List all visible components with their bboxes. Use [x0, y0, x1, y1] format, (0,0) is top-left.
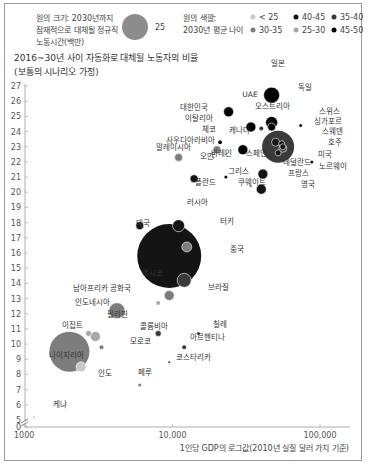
color-swatch-icon — [332, 15, 337, 20]
chart-title: 2016~30년 사이 자동화로 대체될 노동자의 비율 — [14, 53, 198, 63]
bubble-point — [224, 107, 234, 117]
bubble-point — [299, 124, 302, 127]
country-label: 영국 — [301, 179, 315, 189]
bubble-point — [155, 330, 161, 336]
country-label: 브라질 — [208, 283, 229, 292]
size-sample-circle — [122, 14, 148, 40]
x-tick-label: 100,000 — [303, 431, 336, 440]
y-tick-label: 11 — [11, 325, 21, 334]
country-label: 싱가포르 — [314, 116, 342, 126]
country-label: 필리핀 — [107, 309, 128, 319]
country-label: 멕시코 — [142, 268, 163, 278]
country-label: 페루 — [138, 367, 152, 377]
color-swatch-icon — [294, 15, 299, 20]
country-label: 프랑스 — [288, 169, 309, 178]
bubble-point — [177, 273, 191, 287]
country-label: 중국 — [230, 245, 244, 254]
country-label: 칠레 — [213, 320, 227, 329]
color-legend-item: 40-45 — [294, 13, 326, 22]
bubble-point — [138, 384, 141, 387]
bubble-point — [275, 150, 281, 156]
color-legend-label: 35-40 — [340, 13, 363, 22]
size-legend-line-2: 잠재적으로 대체될 정규직 — [36, 25, 118, 35]
country-label: 모로코 — [130, 337, 151, 346]
country-label: 호주 — [328, 138, 342, 147]
color-legend-label: 45-50 — [340, 26, 363, 35]
country-label: 말레이시아 — [156, 142, 191, 152]
country-label: 인도 — [98, 368, 112, 378]
y-tick-label: 13 — [11, 295, 21, 304]
bubble-point — [164, 291, 174, 301]
country-label: 스웨덴 — [322, 127, 343, 136]
color-legend-label: 25-30 — [302, 26, 325, 35]
y-tick-label: 17 — [11, 234, 21, 243]
y-tick-label: 23 — [11, 143, 21, 152]
bubble-point — [182, 242, 192, 252]
y-tick-label: 5 — [16, 416, 21, 425]
y-tick-label: 10 — [11, 340, 21, 349]
bubble-point — [76, 362, 86, 372]
y-tick-label: 16 — [11, 249, 21, 258]
color-legend-item: 35-40 — [332, 13, 364, 22]
bubble-point — [224, 176, 227, 179]
bubble-point — [272, 138, 280, 146]
y-tick-label: 14 — [11, 279, 21, 288]
color-swatch-icon — [251, 28, 256, 33]
color-legend-label: 40-45 — [302, 13, 325, 22]
bubble-point — [156, 301, 160, 305]
country-label: 노르웨이 — [319, 161, 347, 171]
x-tick-label: 1000 — [14, 431, 34, 440]
bubble-point — [264, 87, 280, 103]
y-tick-label: 20 — [11, 188, 21, 197]
y-tick-label: 12 — [11, 310, 21, 319]
color-legend: 원의 색깔: 2030년 평균 나이 < 2525-3030-3535-4040… — [183, 13, 363, 35]
bubble-point — [259, 127, 263, 131]
bubble-point — [168, 361, 170, 363]
color-legend-item: < 25 — [251, 13, 279, 22]
country-label: 쿠웨이트 — [238, 177, 266, 187]
country-label: 나이지리아 — [49, 350, 84, 360]
y-tick-label: 15 — [11, 264, 21, 273]
y-tick-label: 21 — [11, 173, 21, 182]
bubble-point — [173, 220, 185, 232]
country-label: 바레인 — [211, 148, 232, 158]
y-tick-label: 9 — [16, 355, 21, 364]
country-label: 폴란드 — [195, 177, 216, 187]
color-legend-line-1: 원의 색깔: — [183, 13, 216, 23]
bubble-point — [137, 224, 201, 288]
bubble-point — [33, 416, 35, 418]
color-swatch-icon — [251, 15, 256, 20]
bubble-point — [182, 345, 186, 349]
chart-subtitle: (보통의 시나리오 가정) — [14, 67, 99, 77]
bubble-point — [99, 345, 103, 349]
color-legend-line-2: 2030년 평균 나이 — [183, 25, 243, 35]
x-axis-label: 1인당 GDP의 로그값(2010년 실질 달러 가치 기준) — [180, 443, 349, 453]
bubble-point — [280, 144, 286, 150]
country-label: 오스트리아 — [255, 101, 290, 111]
country-label: 이탈리아 — [185, 113, 213, 123]
size-sample-value: 25 — [155, 23, 165, 32]
bubble-point — [268, 123, 276, 131]
label-layer: 일본UAE오스트리아독일스위스싱가포르스웨덴호주미국노르웨이대한민국이탈리아체코… — [49, 59, 348, 409]
country-label: 코스타리카 — [176, 353, 211, 362]
y-tick-label: 18 — [11, 219, 21, 228]
country-label: 콜롬비아 — [140, 321, 168, 331]
country-label: 인도네시아 — [75, 297, 110, 307]
size-legend-line-3: 노동시간(백만) — [36, 37, 84, 47]
country-label: 스위스 — [319, 107, 340, 116]
y-tick-label: 19 — [11, 203, 21, 212]
color-legend-label: < 25 — [259, 13, 278, 22]
color-legend-item: 45-50 — [332, 26, 364, 35]
y-tick-label: 7 — [16, 386, 21, 395]
scatter-chart: 원의 크기: 2030년까지 잠재적으로 대체될 정규직 노동시간(백만) 25… — [0, 0, 368, 469]
color-legend-item: 25-30 — [294, 26, 326, 35]
bubble-point — [175, 153, 183, 161]
country-label: 아르헨티나 — [190, 332, 225, 342]
color-legend-label: 30-35 — [259, 26, 282, 35]
y-tick-label: 8 — [16, 370, 21, 379]
y-tick-label: 22 — [11, 158, 21, 167]
bubble-point — [218, 140, 222, 144]
country-label: 이집트 — [62, 320, 83, 330]
country-label: 독일 — [298, 83, 312, 92]
size-legend: 원의 크기: 2030년까지 잠재적으로 대체될 정규직 노동시간(백만) 25 — [36, 13, 165, 47]
